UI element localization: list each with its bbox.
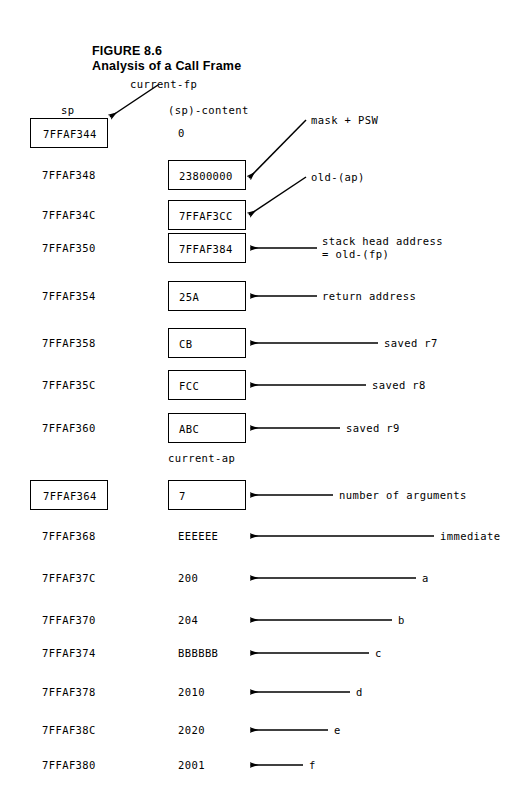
value-text: 2001 — [178, 750, 205, 780]
value-cell: 25A — [168, 281, 246, 311]
annotation-arg-d: d — [356, 686, 363, 699]
value-text: FCC — [179, 371, 199, 401]
address-text: 7FFAF358 — [42, 328, 96, 358]
annotation-arg-f: f — [309, 759, 316, 772]
value-cell: 0 — [168, 118, 246, 148]
value-cell: 23800000 — [168, 160, 246, 190]
address-text: 7FFAF380 — [42, 750, 96, 780]
annotation-arg-c: c — [375, 647, 382, 660]
value-text: 7FFAF384 — [179, 234, 233, 264]
value-cell: 7FFAF3CC — [168, 200, 246, 230]
value-cell: 200 — [168, 563, 246, 593]
address-cell: 7FFAF380 — [30, 750, 108, 780]
annotation-mask-psw: mask + PSW — [311, 114, 378, 127]
value-cell: FCC — [168, 370, 246, 400]
value-cell: EEEEEE — [168, 521, 246, 551]
figure-page: FIGURE 8.6 Analysis of a Call Frame curr… — [0, 0, 514, 807]
address-text: 7FFAF360 — [42, 413, 96, 443]
value-text: 0 — [178, 118, 185, 148]
value-text: 200 — [178, 563, 198, 593]
current-ap-label: current-ap — [168, 452, 235, 464]
address-text: 7FFAF38C — [42, 715, 96, 745]
arrow-mask-psw — [249, 120, 306, 178]
annotation-saved-r9: saved r9 — [346, 422, 400, 435]
value-text: 2010 — [178, 677, 205, 707]
address-text: 7FFAF378 — [42, 677, 96, 707]
address-text: 7FFAF354 — [42, 281, 96, 311]
address-text: 7FFAF37C — [42, 563, 96, 593]
address-cell-ap: 7FFAF364 — [30, 480, 108, 510]
annotation-arg-a: a — [422, 572, 429, 585]
figure-subtitle: Analysis of a Call Frame — [92, 59, 241, 74]
address-cell: 7FFAF35C — [30, 370, 108, 400]
annotation-immediate: immediate — [440, 530, 501, 543]
address-cell-sp: 7FFAF344 — [30, 118, 108, 148]
address-cell: 7FFAF378 — [30, 677, 108, 707]
value-text: BBBBBB — [178, 638, 218, 668]
value-cell: 7FFAF384 — [168, 233, 246, 263]
value-cell: CB — [168, 328, 246, 358]
value-text: ABC — [179, 414, 199, 444]
address-cell: 7FFAF358 — [30, 328, 108, 358]
column-header-content: (sp)-content — [168, 104, 249, 116]
value-cell: 204 — [168, 605, 246, 635]
address-text: 7FFAF35C — [42, 370, 96, 400]
address-cell: 7FFAF348 — [30, 160, 108, 190]
value-text: 2020 — [178, 715, 205, 745]
value-text: 7 — [179, 481, 186, 511]
value-text: 7FFAF3CC — [179, 201, 233, 231]
address-cell: 7FFAF350 — [30, 233, 108, 263]
current-fp-label: current-fp — [130, 78, 197, 90]
address-cell: 7FFAF368 — [30, 521, 108, 551]
value-cell: BBBBBB — [168, 638, 246, 668]
figure-number: FIGURE 8.6 — [92, 44, 241, 59]
value-cell: 2001 — [168, 750, 246, 780]
value-cell: 2010 — [168, 677, 246, 707]
address-cell: 7FFAF37C — [30, 563, 108, 593]
address-cell: 7FFAF360 — [30, 413, 108, 443]
address-cell: 7FFAF354 — [30, 281, 108, 311]
annotation-stack-head: stack head address = old-(fp) — [322, 235, 443, 261]
address-text: 7FFAF364 — [43, 481, 97, 511]
annotation-return-address: return address — [322, 290, 416, 303]
value-text: 25A — [179, 282, 199, 312]
column-header-sp: sp — [61, 104, 74, 116]
annotation-saved-r7: saved r7 — [384, 337, 438, 350]
value-text: CB — [179, 329, 192, 359]
address-cell: 7FFAF370 — [30, 605, 108, 635]
address-text: 7FFAF350 — [42, 233, 96, 263]
address-text: 7FFAF344 — [43, 119, 97, 149]
value-cell: 7 — [168, 480, 246, 510]
value-text: EEEEEE — [178, 521, 218, 551]
arrow-old-ap — [249, 177, 306, 215]
address-cell: 7FFAF374 — [30, 638, 108, 668]
address-text: 7FFAF348 — [42, 160, 96, 190]
value-cell: 2020 — [168, 715, 246, 745]
annotation-old-ap: old-(ap) — [311, 171, 365, 184]
value-text: 23800000 — [179, 161, 233, 191]
annotation-arg-e: e — [334, 724, 341, 737]
annotation-saved-r8: saved r8 — [372, 379, 426, 392]
annotation-number-of-arguments: number of arguments — [339, 489, 467, 502]
value-text: 204 — [178, 605, 198, 635]
address-cell: 7FFAF34C — [30, 200, 108, 230]
address-text: 7FFAF374 — [42, 638, 96, 668]
address-text: 7FFAF368 — [42, 521, 96, 551]
address-text: 7FFAF370 — [42, 605, 96, 635]
address-cell: 7FFAF38C — [30, 715, 108, 745]
address-text: 7FFAF34C — [42, 200, 96, 230]
figure-title: FIGURE 8.6 Analysis of a Call Frame — [92, 44, 241, 74]
annotation-arg-b: b — [398, 614, 405, 627]
value-cell: ABC — [168, 413, 246, 443]
